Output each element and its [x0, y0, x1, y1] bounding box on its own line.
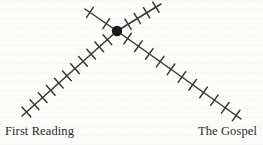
- arms-group: [22, 4, 241, 119]
- the-gospel-arm-tick-2: [135, 41, 143, 52]
- the-gospel-arm-tick-5: [167, 64, 175, 75]
- the-gospel-arm-tick-6: [178, 72, 186, 83]
- upper-right-arm-tick-4: [153, 2, 159, 12]
- diagram-canvas: First Reading The Gospel: [0, 0, 263, 145]
- upper-right-arm-tick-2: [134, 13, 140, 23]
- the-gospel-arm-tick-4: [156, 56, 164, 67]
- upper-right-arm-tick-3: [143, 8, 149, 18]
- upper-right-arm-tick-1: [125, 19, 131, 29]
- upper-right-arm-line: [117, 4, 161, 31]
- label-the-gospel: The Gospel: [198, 124, 257, 139]
- the-gospel-arm-tick-3: [146, 49, 154, 60]
- upper-left-stub-tick-1: [103, 19, 110, 29]
- the-gospel-arm-line: [117, 31, 241, 119]
- ticks-group: [22, 2, 240, 121]
- the-gospel-arm-tick-7: [189, 79, 197, 90]
- upper-left-stub-tick-2: [87, 7, 94, 17]
- the-gospel-arm-tick-11: [232, 110, 240, 121]
- the-gospel-arm-tick-9: [211, 95, 219, 106]
- the-gospel-arm-tick-1: [124, 33, 132, 44]
- the-gospel-arm-tick-10: [221, 103, 229, 114]
- center-node-dot: [112, 26, 122, 36]
- label-first-reading: First Reading: [5, 124, 74, 139]
- the-gospel-arm-tick-8: [200, 87, 208, 98]
- first-reading-arm-line: [22, 31, 117, 116]
